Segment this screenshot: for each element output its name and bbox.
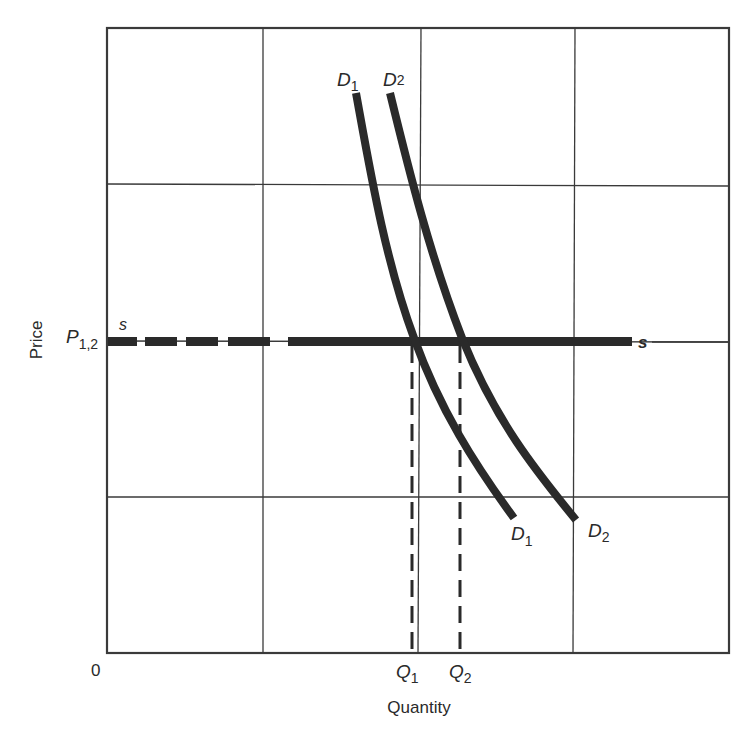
p12-label: P1,2 — [66, 326, 98, 352]
d1-top-label: D1 — [337, 69, 359, 94]
x-axis-label: Quantity — [387, 698, 451, 717]
d2-top-label: D2 — [383, 69, 405, 90]
origin-label: 0 — [91, 661, 100, 680]
q2-label: Q2 — [449, 661, 472, 686]
supply-line — [108, 337, 632, 346]
demand-curve-d1 — [356, 93, 514, 518]
s-left-label: s — [119, 316, 127, 333]
d2-end-label: D2 — [588, 520, 610, 545]
s-right-label: s — [638, 333, 647, 352]
d1-end-label: D1 — [511, 523, 533, 549]
demand-curve-d2 — [390, 93, 576, 520]
q1-label: Q1 — [396, 661, 419, 686]
y-axis-label: Price — [27, 321, 46, 360]
supply-demand-chart: Price P1,2 s s D1 D2 D1 D2 0 Q1 Q2 Quant… — [0, 0, 749, 732]
